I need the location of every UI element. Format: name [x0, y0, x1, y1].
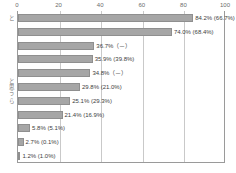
bar-value-label: 29.8% (21.0%)	[82, 83, 122, 91]
x-axis-tick-label: 100	[220, 1, 230, 9]
bar	[18, 28, 172, 36]
bar	[18, 83, 80, 91]
bar-value-label: 35.9% (39.8%)	[95, 55, 135, 63]
bar	[18, 42, 94, 50]
bar-value-label: 25.1% (29.3%)	[72, 97, 112, 105]
bar	[18, 69, 90, 77]
bar-value-label: 74.0% (68.4%)	[174, 28, 214, 36]
bar	[18, 14, 193, 22]
bar-chart: 020406080100 とと 思 うら 84.2% (66.7%)74.0% …	[0, 0, 236, 173]
y-axis-category-label: と 思 う	[9, 78, 15, 96]
bar-value-label: 36.7%（－）	[96, 42, 131, 50]
bar-row: 2.7% (0.1%)	[18, 138, 224, 146]
bar-row: 1.2% (1.0%)	[18, 152, 224, 160]
bar-row: 84.2% (66.7%)	[18, 14, 224, 22]
bar-value-label: 21.4% (16.9%)	[65, 111, 105, 119]
bar-row: 74.0% (68.4%)	[18, 28, 224, 36]
y-axis-category-label: ら	[9, 98, 15, 104]
bar-row: 25.1% (29.3%)	[18, 97, 224, 105]
bar-row: 36.7%（－）	[18, 42, 224, 50]
bar	[18, 124, 30, 132]
x-axis: 020406080100	[17, 0, 225, 11]
bar	[18, 97, 70, 105]
y-axis: とと 思 うら	[0, 11, 17, 163]
bar	[18, 138, 24, 146]
bar-row: 21.4% (16.9%)	[18, 111, 224, 119]
y-axis-category-label: と	[9, 15, 15, 21]
x-axis-tick-label: 80	[180, 1, 187, 9]
plot-area: 84.2% (66.7%)74.0% (68.4%)36.7%（－）35.9% …	[17, 11, 225, 163]
bar-value-label: 5.8% (5.1%)	[32, 124, 65, 132]
bar-value-label: 2.7% (0.1%)	[26, 138, 59, 146]
bar-value-label: 34.8%（－）	[92, 69, 127, 77]
bar-row: 34.8%（－）	[18, 69, 224, 77]
bar-row: 35.9% (39.8%)	[18, 55, 224, 63]
x-axis-tick-label: 20	[55, 1, 62, 9]
bar-row: 29.8% (21.0%)	[18, 83, 224, 91]
x-axis-tick-label: 40	[97, 1, 104, 9]
bar-value-label: 1.2% (1.0%)	[22, 152, 55, 160]
bar-row: 5.8% (5.1%)	[18, 124, 224, 132]
x-axis-tick-label: 0	[15, 1, 18, 9]
x-axis-tick-label: 60	[138, 1, 145, 9]
bar	[18, 111, 63, 119]
bar-value-label: 84.2% (66.7%)	[195, 14, 235, 22]
bar	[18, 55, 93, 63]
bar	[18, 152, 20, 160]
